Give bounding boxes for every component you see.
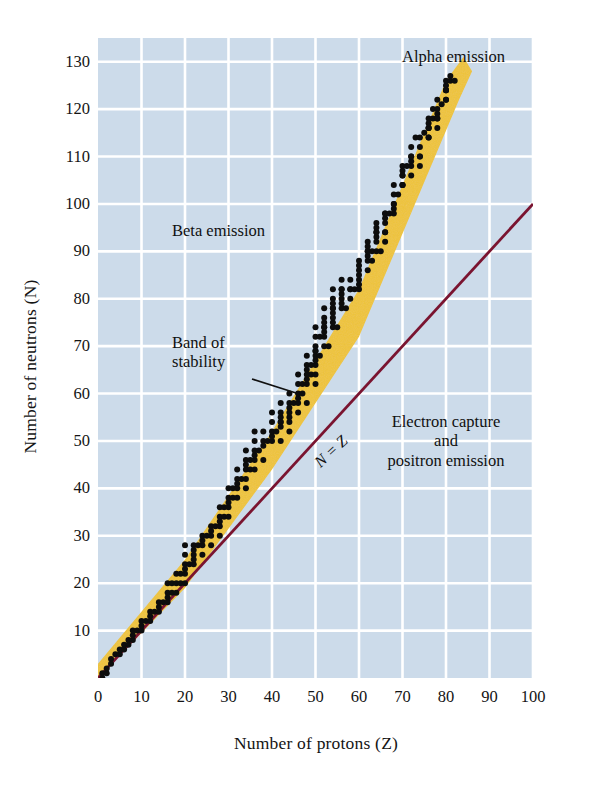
annotation-beta-emission-text: Beta emission <box>172 221 265 240</box>
data-point <box>339 286 345 292</box>
data-point <box>313 372 319 378</box>
data-point <box>234 495 240 501</box>
data-point <box>378 248 384 254</box>
data-point <box>408 144 414 150</box>
data-point <box>173 590 179 596</box>
annotation-ec-line-2: and <box>371 431 521 450</box>
data-point <box>321 324 327 330</box>
data-point <box>487 0 493 3</box>
data-point <box>452 30 458 36</box>
data-point <box>426 120 432 126</box>
data-point <box>182 580 188 586</box>
data-point <box>452 78 458 84</box>
data-point <box>182 542 188 548</box>
data-point <box>452 21 458 27</box>
data-point <box>382 229 388 235</box>
annotation-band-line-1: Band of <box>172 333 225 352</box>
data-point <box>369 258 375 264</box>
annotation-band-line-2: stability <box>172 352 225 371</box>
data-point <box>343 305 349 311</box>
data-point <box>313 348 319 354</box>
data-point <box>321 315 327 321</box>
data-point <box>269 410 275 416</box>
data-point <box>373 220 379 226</box>
data-point <box>339 277 345 283</box>
data-point <box>278 438 284 444</box>
data-point <box>313 381 319 387</box>
data-point <box>478 0 484 3</box>
data-point <box>321 305 327 311</box>
data-point <box>304 400 310 406</box>
data-point <box>334 324 340 330</box>
data-point <box>260 428 266 434</box>
data-point <box>326 343 332 349</box>
data-point <box>313 324 319 330</box>
data-point <box>434 125 440 131</box>
data-point <box>356 258 362 264</box>
data-point <box>408 163 414 169</box>
data-point <box>104 666 110 672</box>
data-point <box>286 428 292 434</box>
data-point <box>217 533 223 539</box>
data-point <box>417 154 423 160</box>
data-point <box>234 466 240 472</box>
nuclide-chart-figure: Number of neutrons (N) Number of protons… <box>0 0 596 791</box>
data-point <box>417 144 423 150</box>
data-point <box>295 372 301 378</box>
data-point <box>434 106 440 112</box>
data-point <box>243 485 249 491</box>
data-point <box>495 0 501 3</box>
data-point <box>395 191 401 197</box>
data-point <box>108 656 114 662</box>
data-point <box>252 438 258 444</box>
data-point <box>452 2 458 8</box>
data-point <box>365 239 371 245</box>
data-point <box>347 277 353 283</box>
data-point <box>382 239 388 245</box>
data-point <box>330 305 336 311</box>
data-point <box>373 229 379 235</box>
data-point <box>330 296 336 302</box>
data-point <box>260 457 266 463</box>
data-point <box>421 130 427 136</box>
annotation-alpha-emission-text: Alpha emission <box>402 47 505 66</box>
data-point <box>391 210 397 216</box>
data-point <box>208 542 214 548</box>
plot-area <box>0 0 596 791</box>
data-point <box>408 172 414 178</box>
annotation-alpha-emission: Alpha emission <box>402 47 505 66</box>
data-point <box>269 419 275 425</box>
data-point <box>365 267 371 273</box>
data-point <box>391 182 397 188</box>
annotation-ec-line-3: positron emission <box>371 451 521 470</box>
data-point <box>391 201 397 207</box>
data-point <box>243 447 249 453</box>
data-point <box>469 0 475 3</box>
data-point <box>400 182 406 188</box>
annotation-beta-emission: Beta emission <box>172 221 265 240</box>
data-point <box>443 97 449 103</box>
data-point <box>299 391 305 397</box>
data-point <box>295 410 301 416</box>
data-point <box>439 101 445 107</box>
data-point <box>199 552 205 558</box>
data-point <box>226 514 232 520</box>
data-point <box>304 353 310 359</box>
data-point <box>417 163 423 169</box>
data-point <box>495 0 501 3</box>
data-point <box>417 135 423 141</box>
data-point <box>426 135 432 141</box>
data-point <box>252 466 258 472</box>
data-point <box>330 286 336 292</box>
annotation-band-of-stability: Band of stability <box>172 333 225 372</box>
data-point <box>400 172 406 178</box>
data-point <box>243 476 249 482</box>
data-point <box>278 400 284 406</box>
data-point <box>252 428 258 434</box>
data-point <box>460 0 466 3</box>
data-point <box>317 353 323 359</box>
data-point <box>434 97 440 103</box>
data-point <box>273 428 279 434</box>
data-point <box>408 154 414 160</box>
annotation-ec-line-1: Electron capture <box>371 412 521 431</box>
